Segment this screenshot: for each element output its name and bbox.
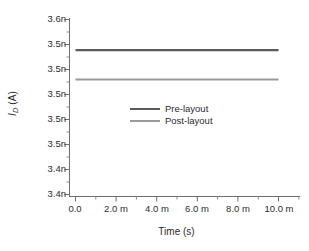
legend-item-post-layout: Post-layout bbox=[130, 115, 213, 127]
x-axis-title: Time (s) bbox=[69, 226, 284, 237]
chart-legend: Pre-layout Post-layout bbox=[130, 103, 213, 127]
x-tick-label: 0.0 bbox=[52, 203, 98, 214]
y-tick-label: 3.5n bbox=[20, 114, 66, 124]
x-tick-label: 6.0 m bbox=[174, 203, 220, 214]
y-tick-label: 3.5n bbox=[20, 89, 66, 99]
legend-swatch-icon bbox=[130, 120, 160, 122]
y-tick-label: 3.5n bbox=[20, 39, 66, 49]
legend-swatch-icon bbox=[130, 108, 160, 110]
y-tick-label: 3.5n bbox=[20, 139, 66, 149]
y-axis-title: ID (A) bbox=[7, 69, 20, 139]
chart-figure: 3.6n 3.5n 3.5n 3.5n 3.5n 3.5n 3.4n 3.4n … bbox=[0, 0, 309, 251]
x-tick-label: 10.0 m bbox=[256, 203, 302, 214]
y-tick-label: 3.4n bbox=[20, 164, 66, 174]
x-tick-label: 2.0 m bbox=[93, 203, 139, 214]
y-axis-unit: (A) bbox=[7, 91, 18, 108]
x-tick-label: 8.0 m bbox=[215, 203, 261, 214]
legend-label: Post-layout bbox=[165, 116, 213, 126]
y-axis-symbol: I bbox=[7, 113, 18, 116]
y-tick-label: 3.5n bbox=[20, 64, 66, 74]
legend-item-pre-layout: Pre-layout bbox=[130, 103, 213, 115]
y-tick-label: 3.6n bbox=[20, 14, 66, 24]
y-tick-label: 3.4n bbox=[20, 189, 66, 199]
y-axis-subscript: D bbox=[11, 108, 20, 114]
legend-label: Pre-layout bbox=[165, 104, 208, 114]
